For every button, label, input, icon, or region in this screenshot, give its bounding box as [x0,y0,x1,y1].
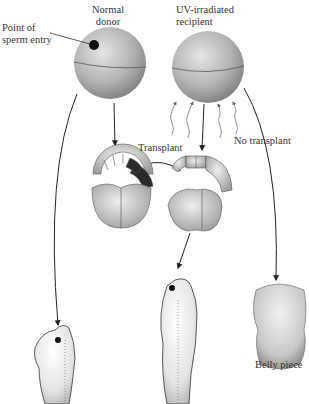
sperm-label-line1: Point of [2,22,52,34]
donor-label-line1: Normal [92,4,124,16]
normal-donor-label: Normal donor [92,4,124,28]
belly-piece [253,284,306,369]
uv-recipient-label: UV-irradiated recipient [176,4,234,28]
uv-irradiated-recipient-egg [172,31,244,103]
sperm-entry-point [89,40,99,50]
flow-arrows [54,88,276,325]
normal-tadpole-left [35,325,76,404]
recipient-label-line2: recipient [176,16,234,28]
sperm-label-line2: sperm entry [2,34,52,46]
no-transplant-label: No transplant [234,135,291,147]
belly-piece-label: Belly piece [255,359,303,371]
transplant-tadpole-middle [161,279,197,404]
normal-donor-egg [50,27,146,99]
transplant-label: Transplant [138,142,183,154]
recipient-label-line1: UV-irradiated [176,4,234,16]
experiment-diagram [0,0,309,404]
recipient-embryo [168,156,232,231]
donor-embryo [92,144,153,228]
sperm-entry-label: Point of sperm entry [2,22,52,46]
donor-label-line2: donor [92,16,124,28]
